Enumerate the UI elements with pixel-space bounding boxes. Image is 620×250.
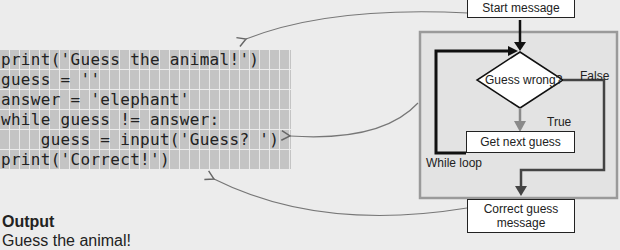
output-heading: Output [2,213,54,231]
correct-guess-box: Correct guess message [467,199,575,233]
correct-guess-label: Correct guess message [482,202,560,230]
get-next-guess-box: Get next guess [466,131,575,153]
decision-label: Guess wrong? [485,73,562,87]
get-next-guess-label: Get next guess [480,135,561,149]
start-message-box: Start message [467,0,575,18]
pointer-arrow-loop [290,103,418,137]
false-label: False [580,69,609,83]
while-loop-label: While loop [426,156,482,170]
start-message-label: Start message [482,1,559,15]
true-label: True [547,115,571,129]
output-line: Guess the animal! [2,232,131,250]
